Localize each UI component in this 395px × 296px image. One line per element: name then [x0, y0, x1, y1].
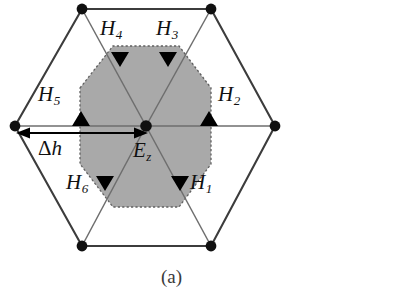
label-h3: H3 [156, 18, 178, 41]
label-h1-base: H [190, 170, 205, 194]
label-ez-sub: z [146, 149, 152, 164]
label-h3-sub: 3 [171, 27, 178, 42]
vertex-node-left [10, 121, 21, 132]
label-delta-glyph: Δ [38, 136, 52, 160]
label-h4: H4 [100, 18, 122, 41]
vertex-node-bottom-right [206, 241, 217, 252]
center-node-ez [140, 120, 152, 132]
label-h6-base: H [66, 170, 81, 194]
figure-container: H4 H3 H5 H2 Δh Ez H6 H1 (a) [0, 0, 395, 296]
label-delta-h: Δh [38, 138, 62, 159]
label-ez-base: E [133, 138, 146, 162]
label-h1: H1 [190, 172, 212, 195]
label-h5: H5 [38, 84, 60, 107]
label-h6: H6 [66, 172, 88, 195]
vertex-node-bottom-left [77, 241, 88, 252]
label-h4-base: H [100, 16, 115, 40]
label-h3-base: H [156, 16, 171, 40]
label-h2-base: H [218, 82, 233, 106]
label-delta-h-base: h [52, 136, 63, 160]
vertex-node-top-left [77, 4, 88, 15]
label-h2: H2 [218, 84, 240, 107]
vertex-node-top-right [206, 4, 217, 15]
label-h2-sub: 2 [233, 93, 240, 108]
label-h1-sub: 1 [205, 181, 212, 196]
label-h5-base: H [38, 82, 53, 106]
label-h4-sub: 4 [115, 27, 122, 42]
label-h5-sub: 5 [53, 93, 60, 108]
figure-caption: (a) [161, 266, 182, 288]
vertex-node-right [270, 121, 281, 132]
label-h6-sub: 6 [81, 181, 88, 196]
label-ez: Ez [133, 140, 151, 163]
